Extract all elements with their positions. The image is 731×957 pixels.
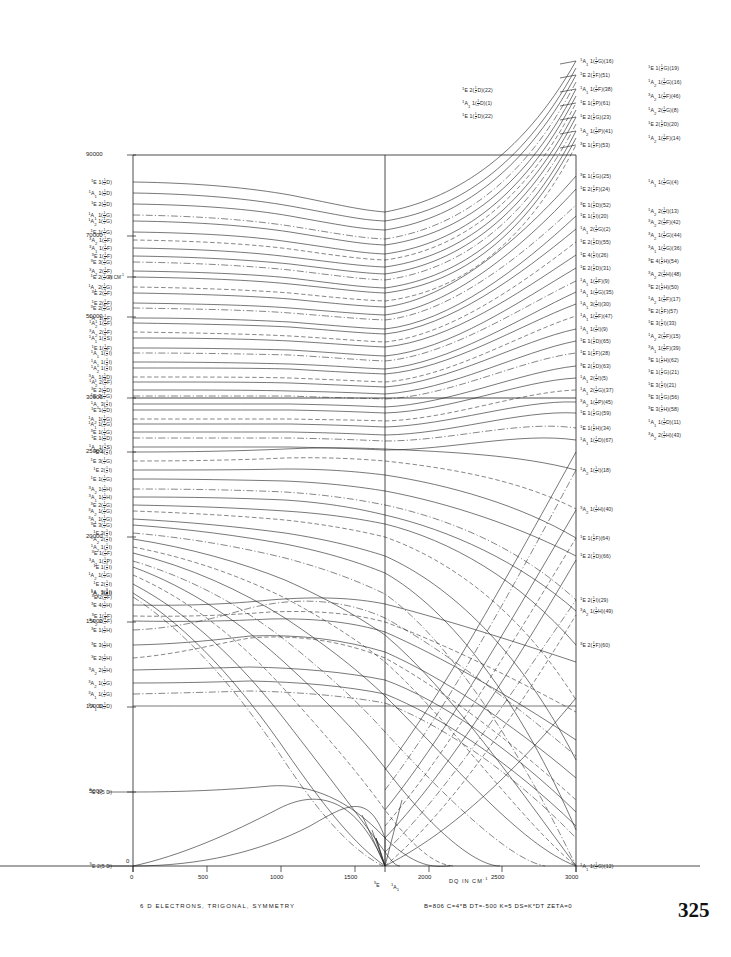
term-label: 1E 1(12G) <box>91 476 112 484</box>
term-label: 1A2 2(12I)(13) <box>648 208 679 216</box>
term-label: 3E 2(12G) <box>91 305 112 313</box>
term-label: 3E 1(12F)(53) <box>580 142 610 150</box>
term-label: 3A2 2(12H) <box>88 667 112 675</box>
y-tick-0: 0 <box>126 858 129 864</box>
y-tick-90000: 90000 <box>86 151 103 157</box>
x-tick-1000: 1000 <box>270 874 283 880</box>
term-label: 1A2 1(12I) <box>91 365 112 373</box>
term-label: 1E 1(12P)(61) <box>580 100 610 108</box>
term-label: 3E 1(12F) <box>91 550 112 558</box>
term-label: 1E 4(12I) <box>93 449 112 457</box>
term-label: 3E 2(12F)(60) <box>580 642 610 650</box>
term-label: 1A2 1(12F) <box>89 320 112 328</box>
x-axis-ticks <box>133 866 576 872</box>
term-label: 1A1 3(12I)(30) <box>580 301 611 309</box>
term-label: 1A1 2(12G)(37) <box>580 387 613 395</box>
term-label: 3E 3(12G)(56) <box>648 394 679 402</box>
term-label: 3E 4(12H)(54) <box>648 258 679 266</box>
term-label: 3A2 1(12H)(40) <box>580 506 613 514</box>
term-label: 3E 2(12F)(57) <box>648 308 678 316</box>
term-label: 3E 1(12D)(52) <box>580 202 611 210</box>
figure-page: .ln{fill:none;stroke:#232323;stroke-widt… <box>0 0 731 957</box>
term-label: 5E 2(5 D) <box>89 863 112 869</box>
term-label: 1A1 1(12I) <box>91 350 112 358</box>
term-label: 1E 2(12D)(66) <box>580 553 611 561</box>
term-label: 3A2 1(12G)(44) <box>648 232 681 240</box>
term-label: 3E 2(12D)(63) <box>580 363 611 371</box>
figure-parameters: B=806 C=4*B DT=-500 K=5 DS=K*DT ZETA=0 <box>424 903 572 909</box>
term-label: 3A2 2(12F)(42) <box>648 219 681 227</box>
term-label: 1E 2(12D)(22) <box>462 87 493 95</box>
page-number: 325 <box>678 898 710 923</box>
x-tick-500: 500 <box>198 874 208 880</box>
term-label: 1E 2(12F)(24) <box>580 186 610 194</box>
term-label: 3A1 1(12G)(36) <box>648 245 681 253</box>
term-label: 1A1 1(12G)(12) <box>580 863 613 871</box>
term-label: 1A2 1(12G)(16) <box>648 79 681 87</box>
term-label: 1E 1(12G)(19) <box>648 65 679 73</box>
term-label: 1A1 1(12G)(16) <box>580 58 613 66</box>
term-label: 5A1 1(12D) <box>88 703 112 711</box>
left-leader-lines <box>108 792 133 866</box>
term-label: 5E 1(5 D) <box>89 789 112 795</box>
term-label: 1E 1(12D)(22) <box>462 113 493 121</box>
term-label: 1A2 3(12I) <box>91 589 112 597</box>
x-tick-3000: 3000 <box>565 874 578 880</box>
term-label: 3A2 1(12F)(46) <box>648 93 681 101</box>
term-label: 1E 1(12D) <box>91 407 112 415</box>
term-label: 1E 1(12G) <box>91 229 112 237</box>
term-label: 1A2 1(12F)(17) <box>648 296 681 304</box>
term-label: 1A2 1(12G) <box>88 572 112 580</box>
term-label: 1E 3(12G) <box>91 393 112 401</box>
term-label: 3E 2(12H) <box>91 655 112 663</box>
term-label: 1A2 1(12F)(14) <box>648 135 681 143</box>
term-label: 1E 2(12G) <box>91 274 112 282</box>
term-label: 3E 1(12H)(62) <box>648 357 679 365</box>
term-label: 1E 1(12H)(34) <box>580 425 611 433</box>
term-label: 1A1 1(12D)(67) <box>580 437 613 445</box>
x-tick-0: 0 <box>130 874 133 880</box>
term-label: 1E 1(12D) <box>91 179 112 187</box>
term-label: 1A1 1(12I)(9) <box>580 326 608 334</box>
term-label: 1A1 2(12I)(5) <box>580 375 608 383</box>
term-label: 3E 3(12H) <box>91 642 112 650</box>
term-label: 1A1 1(12F)(9) <box>580 278 610 286</box>
term-label: 3A2 2(12H)(43) <box>648 432 681 440</box>
term-label: 1E 1(12D)(65) <box>580 338 611 346</box>
term-label: 1A1 1(12S) <box>89 335 112 343</box>
term-label: 1E 2(12I) <box>93 581 112 589</box>
term-label: 3E 3(12G) <box>91 259 112 267</box>
term-label: 3A2 2(12H)(48) <box>648 271 681 279</box>
term-label: 1E 2(12I) <box>93 467 112 475</box>
term-label: 3E 2(12F) <box>91 290 112 298</box>
term-label: 3E 1(12H) <box>91 627 112 635</box>
term-label: 1E 2(12I)(29) <box>580 597 608 605</box>
term-label: 3E 1(12G)(25) <box>580 173 611 181</box>
term-label: 1A1 1(12D)(11) <box>648 419 681 427</box>
term-label: 3A2 1(12F) <box>89 237 112 245</box>
term-label: 3E 2(12H)(50) <box>648 284 679 292</box>
x-tick-2500: 2500 <box>491 874 504 880</box>
term-label: 3A2 1(12P)(45) <box>580 399 613 407</box>
term-label: 1A2 1(12P)(41) <box>580 128 613 136</box>
term-label: 1A2 1(12G) <box>88 218 112 226</box>
term-label: 3A1 1(12G) <box>88 691 112 699</box>
term-label: 3A1 1(12F)(39) <box>648 345 681 353</box>
crossover-label-singlet: 1A1 <box>391 882 399 892</box>
term-label: 1E 1(12G)(59) <box>580 410 611 418</box>
term-label: 3A2 1(12G) <box>88 680 112 688</box>
term-label: 1E 2(12G)(23) <box>580 114 611 122</box>
term-label: 1E 2(12F)(51) <box>580 72 610 80</box>
x-tick-1500: 1500 <box>344 874 357 880</box>
term-label: 1E 2(12D)(31) <box>580 265 611 273</box>
term-label: 1E 1(12G)(21) <box>648 369 679 377</box>
term-label: 1A1 1(12G)(35) <box>580 289 613 297</box>
term-label: 1A1 1(12G)(4) <box>648 179 678 187</box>
term-label: 1A1 1(12F)(38) <box>580 86 613 94</box>
mid-manifold-curves <box>133 448 576 866</box>
term-label: 1E 4(12I)(26) <box>580 252 608 260</box>
term-label: 1E 1(12I)(20) <box>580 213 608 221</box>
term-label: 1E 2(12D)(20) <box>648 121 679 129</box>
upper-manifold-curves <box>133 61 576 450</box>
x-tick-2000: 2000 <box>418 874 431 880</box>
